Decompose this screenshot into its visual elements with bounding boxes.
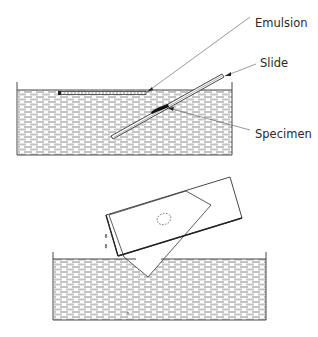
slide-label: Slide <box>260 56 288 70</box>
top-panel: Emulsion Slide Specimen <box>17 16 312 155</box>
emulsion-leader <box>147 17 250 92</box>
speck <box>127 312 129 314</box>
bottom-panel <box>53 177 266 320</box>
bottom-tank-water <box>54 259 266 320</box>
top-tank-water <box>17 90 232 155</box>
technique-diagram: Emulsion Slide Specimen <box>0 0 318 337</box>
emulsion-label: Emulsion <box>255 16 307 30</box>
specimen-label: Specimen <box>255 127 312 141</box>
floating-emulsion <box>58 91 146 95</box>
draining-drops <box>105 234 107 248</box>
